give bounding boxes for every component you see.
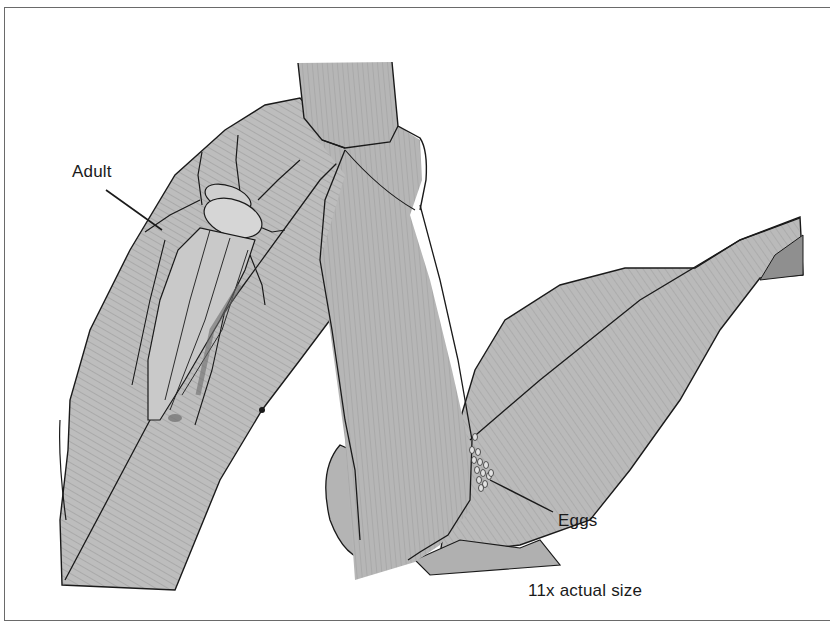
adult-label: Adult bbox=[72, 162, 112, 182]
small-insect-dot bbox=[259, 407, 265, 413]
leafhopper-illustration bbox=[0, 0, 830, 631]
scale-caption: 11x actual size bbox=[528, 581, 642, 601]
right-leaf bbox=[440, 217, 803, 555]
eggs-label: Eggs bbox=[558, 511, 598, 531]
